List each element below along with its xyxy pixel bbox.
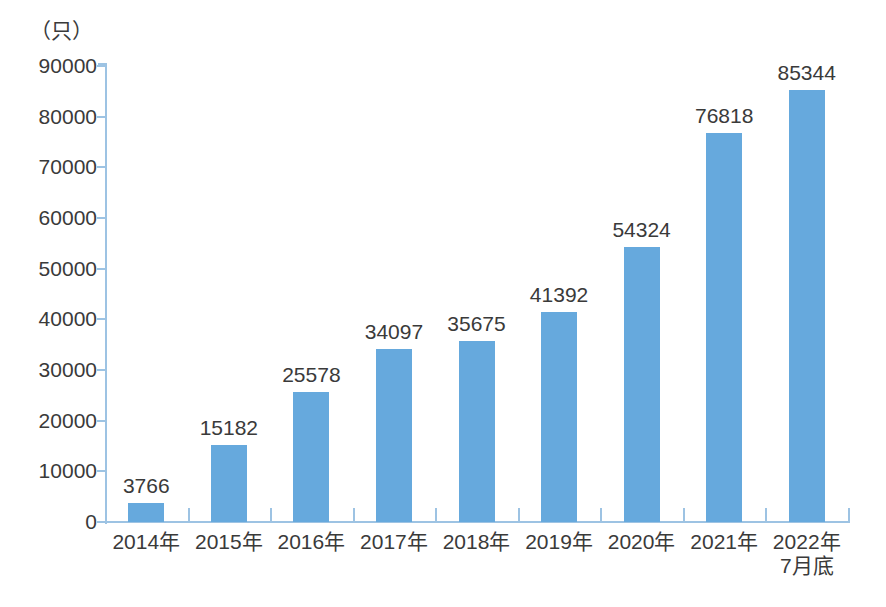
bar [789,90,825,522]
x-axis-label-line: 7月底 [747,554,867,578]
bar-chart: （只） 010000200003000040000500006000070000… [0,0,886,607]
y-axis-tick-label: 60000 [5,207,97,228]
y-axis-tick-label: 80000 [5,106,97,127]
bar [293,392,329,522]
x-axis-tick [848,508,850,523]
y-axis-unit-label: （只） [30,14,93,44]
y-axis-tick-label: 10000 [5,460,97,481]
bar [128,503,164,522]
bar [541,312,577,522]
bar-value-label: 3766 [86,475,206,496]
plot-area: 3766151822557834097356754139254324768188… [105,66,848,522]
y-axis-tick-label: 30000 [5,359,97,380]
bar-value-label: 76818 [664,105,784,126]
bar [211,445,247,522]
y-axis-tick-label: 0 [5,511,97,532]
x-axis-label-line: 2022年 [747,530,867,554]
y-axis-tick-label: 90000 [5,55,97,76]
bar-value-label: 54324 [582,219,702,240]
x-axis-category-label: 2022年7月底 [747,530,867,578]
bar-value-label: 25578 [251,364,371,385]
bar-value-label: 35675 [417,313,537,334]
y-axis-tick-label: 70000 [5,156,97,177]
bar-value-label: 41392 [499,284,619,305]
y-axis-tick-label: 40000 [5,308,97,329]
bar-value-label: 85344 [747,62,867,83]
bar-value-label: 15182 [169,417,289,438]
bar [706,133,742,522]
y-axis-tick-label: 50000 [5,258,97,279]
bar [376,349,412,522]
bar [624,247,660,522]
bar [459,341,495,522]
y-axis-tick-label: 20000 [5,410,97,431]
